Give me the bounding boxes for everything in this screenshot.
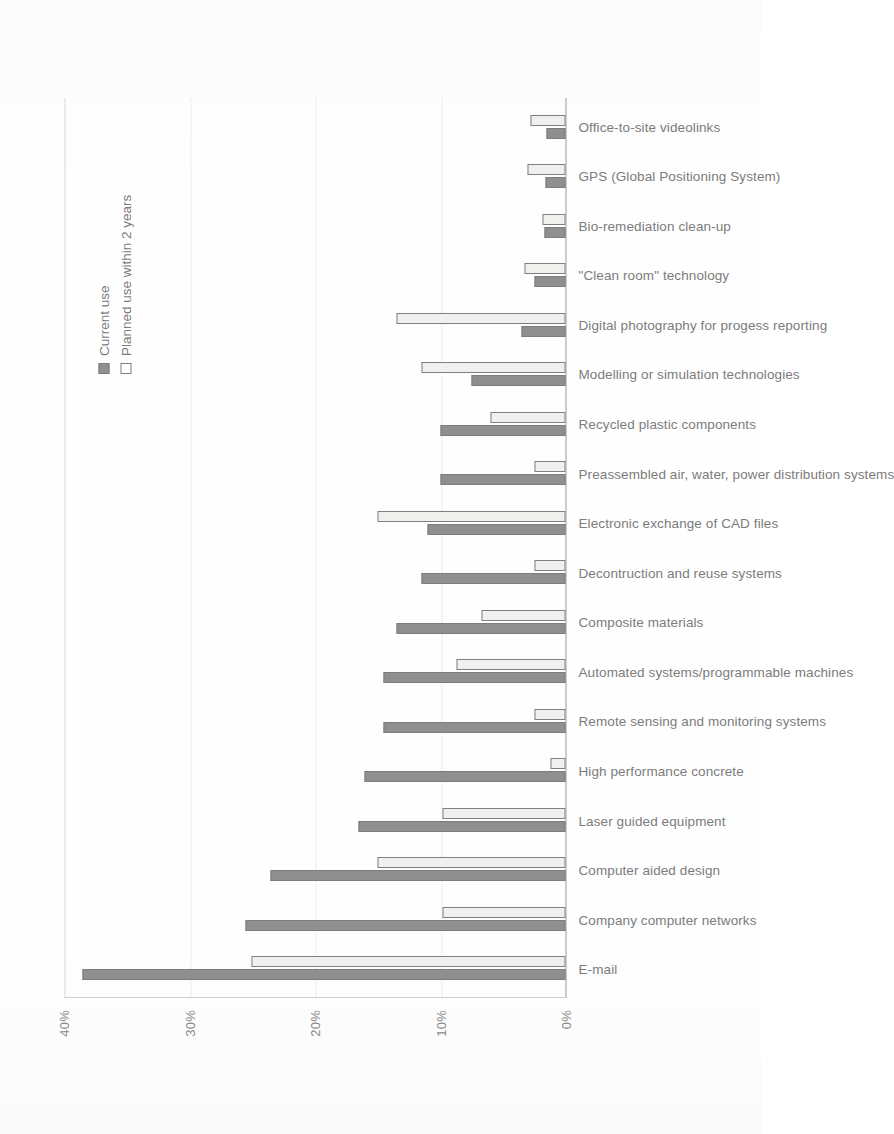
category-label-text: Remote sensing and monitoring systems bbox=[578, 714, 826, 729]
category-label: Office-to-site videolinks bbox=[572, 102, 752, 152]
category-label-text: Automated systems/programmable machines bbox=[578, 664, 853, 679]
bar-current-use bbox=[383, 722, 565, 733]
bar-group bbox=[64, 152, 565, 202]
bar-group bbox=[64, 548, 565, 598]
bar-planned-use bbox=[490, 412, 565, 423]
bar-group bbox=[64, 944, 565, 994]
bar-group bbox=[64, 647, 565, 697]
bar-group bbox=[64, 399, 565, 449]
y-axis-tick-label: 0% bbox=[559, 1010, 574, 1080]
legend-label-current-use: Current use bbox=[96, 285, 111, 356]
category-label-text: Bio-remediation clean-up bbox=[578, 218, 730, 233]
bar-planned-use bbox=[377, 511, 565, 522]
bar-planned-use bbox=[524, 263, 565, 274]
bar-planned-use bbox=[481, 610, 565, 621]
category-label-text: Modelling or simulation technologies bbox=[578, 367, 799, 382]
bar-current-use bbox=[545, 177, 565, 188]
bar-current-use bbox=[270, 870, 565, 881]
bar-planned-use bbox=[456, 659, 565, 670]
legend-swatch-outline-icon bbox=[120, 363, 131, 374]
y-axis-tick-label: 10% bbox=[433, 1010, 448, 1080]
category-label: Digital photography for progess reportin… bbox=[572, 300, 752, 350]
bar-current-use bbox=[471, 375, 565, 386]
category-label-text: Electronic exchange of CAD files bbox=[578, 516, 778, 531]
category-label-text: Laser guided equipment bbox=[578, 813, 725, 828]
bar-planned-use bbox=[530, 115, 565, 126]
bar-current-use bbox=[440, 474, 566, 485]
y-axis-tick-label: 20% bbox=[308, 1010, 323, 1080]
category-label: Laser guided equipment bbox=[572, 796, 752, 846]
legend-swatch-filled-icon bbox=[98, 363, 109, 374]
chart-legend: Current use Planned use within 2 years bbox=[96, 195, 140, 374]
category-label: E-mail bbox=[572, 944, 752, 994]
category-label-text: Company computer networks bbox=[578, 912, 756, 927]
bar-planned-use bbox=[542, 214, 565, 225]
bar-group bbox=[64, 894, 565, 944]
category-label-text: Recycled plastic components bbox=[578, 417, 756, 432]
bar-current-use bbox=[421, 573, 565, 584]
category-label-text: High performance concrete bbox=[578, 763, 743, 778]
category-label-text: "Clean room" technology bbox=[578, 268, 729, 283]
bar-planned-use bbox=[421, 362, 565, 373]
category-axis-labels: E-mailCompany computer networksComputer … bbox=[572, 98, 752, 998]
category-label-text: GPS (Global Positioning System) bbox=[578, 169, 780, 184]
bar-current-use bbox=[440, 425, 566, 436]
bar-planned-use bbox=[442, 907, 565, 918]
legend-label-planned-use: Planned use within 2 years bbox=[118, 195, 133, 356]
category-label: GPS (Global Positioning System) bbox=[572, 151, 752, 201]
bar-planned-use bbox=[550, 758, 565, 769]
bar-current-use bbox=[396, 623, 565, 634]
bar-group bbox=[64, 845, 565, 895]
category-label: "Clean room" technology bbox=[572, 251, 752, 301]
bar-planned-use bbox=[442, 808, 565, 819]
bar-group bbox=[64, 597, 565, 647]
category-label-text: Digital photography for progess reportin… bbox=[578, 317, 827, 332]
category-label: Bio-remediation clean-up bbox=[572, 201, 752, 251]
legend-item-current-use: Current use bbox=[96, 195, 111, 374]
bar-current-use bbox=[544, 227, 565, 238]
y-axis-tick-label: 40% bbox=[57, 1010, 72, 1080]
bar-current-use bbox=[82, 969, 565, 980]
category-label-text: Preassembled air, water, power distribut… bbox=[578, 466, 894, 481]
bar-current-use bbox=[358, 821, 565, 832]
bar-planned-use bbox=[534, 709, 565, 720]
bar-group bbox=[64, 795, 565, 845]
bar-planned-use bbox=[377, 857, 565, 868]
bar-group bbox=[64, 102, 565, 152]
category-label: Electronic exchange of CAD files bbox=[572, 498, 752, 548]
bar-current-use bbox=[383, 672, 565, 683]
category-label-text: Composite materials bbox=[578, 615, 703, 630]
category-label: Decontruction and reuse systems bbox=[572, 548, 752, 598]
bar-current-use bbox=[245, 920, 565, 931]
bar-planned-use bbox=[534, 461, 565, 472]
bar-group bbox=[64, 746, 565, 796]
category-label: Automated systems/programmable machines bbox=[572, 647, 752, 697]
legend-item-planned-use: Planned use within 2 years bbox=[118, 195, 133, 374]
bar-planned-use bbox=[251, 956, 565, 967]
category-label-text: Decontruction and reuse systems bbox=[578, 565, 781, 580]
bar-current-use bbox=[546, 128, 565, 139]
category-label: Preassembled air, water, power distribut… bbox=[572, 449, 752, 499]
bar-current-use bbox=[534, 276, 565, 287]
bar-group bbox=[64, 498, 565, 548]
bar-group bbox=[64, 449, 565, 499]
bar-current-use bbox=[427, 524, 565, 535]
y-axis-tick-label: 30% bbox=[182, 1010, 197, 1080]
category-label-text: Office-to-site videolinks bbox=[578, 119, 720, 134]
category-label: Company computer networks bbox=[572, 895, 752, 945]
category-label: Composite materials bbox=[572, 598, 752, 648]
bar-current-use bbox=[521, 326, 565, 337]
bar-current-use bbox=[364, 771, 565, 782]
category-label-text: E-mail bbox=[578, 962, 617, 977]
category-label: Modelling or simulation technologies bbox=[572, 350, 752, 400]
category-label: Recycled plastic components bbox=[572, 399, 752, 449]
bar-planned-use bbox=[534, 560, 565, 571]
bar-planned-use bbox=[396, 313, 565, 324]
bar-planned-use bbox=[527, 164, 565, 175]
bar-group bbox=[64, 696, 565, 746]
category-label-text: Computer aided design bbox=[578, 863, 720, 878]
category-label: High performance concrete bbox=[572, 746, 752, 796]
